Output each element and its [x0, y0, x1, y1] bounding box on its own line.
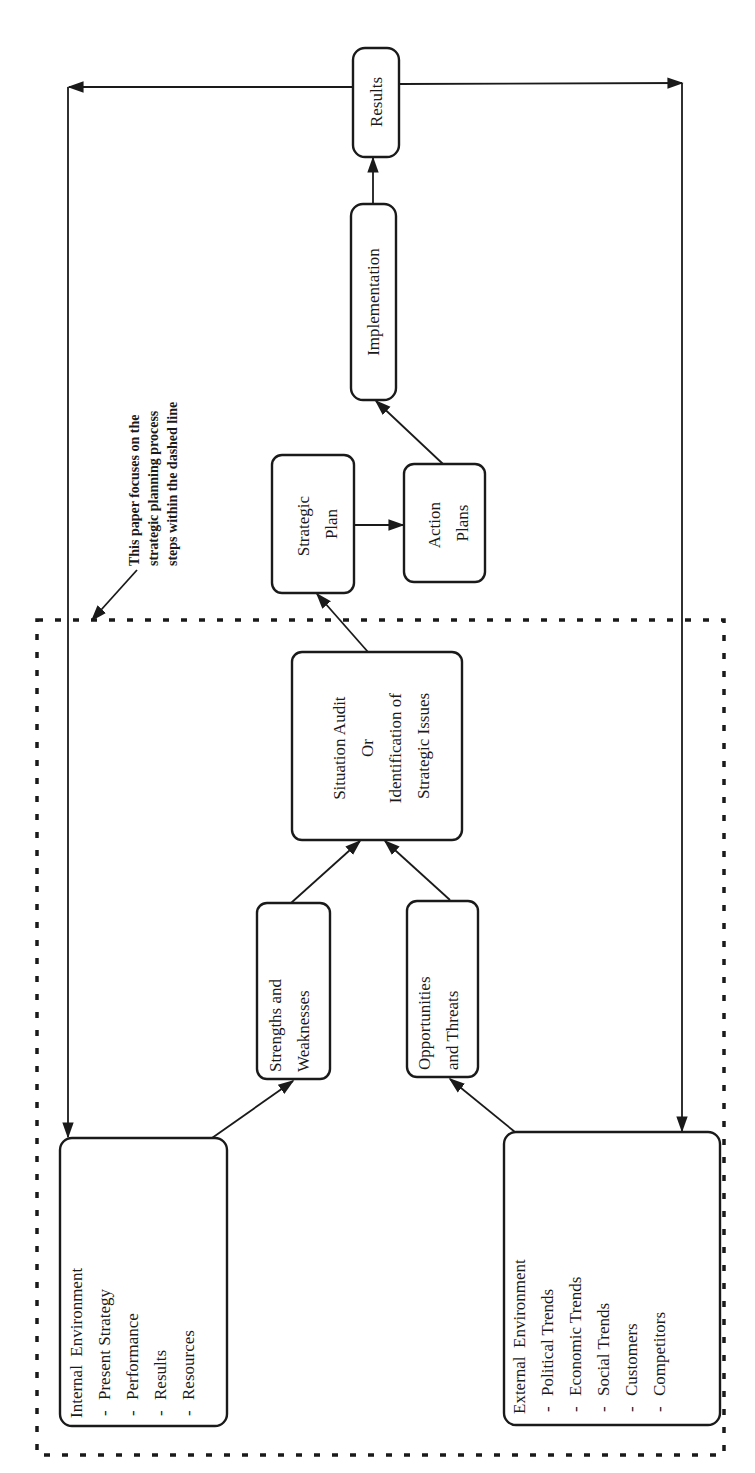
opportunities-line-2: and Threats [443, 991, 462, 1070]
note-line-1: This paper focuses on the [127, 415, 142, 566]
implementation-label: Implementation [364, 248, 383, 356]
action-plans-line-1: Action [425, 501, 444, 548]
note-line-3: steps within the dashed line [165, 402, 180, 566]
internal-bullet-4: - [179, 1410, 198, 1416]
arrow-strengths-to-situation [291, 841, 360, 903]
external-title: External Environment [510, 1259, 529, 1414]
situation-line-3: Identification of [386, 693, 405, 803]
external-item-1: Political Trends [538, 1289, 557, 1396]
external-bullet-1: - [538, 1406, 557, 1412]
note-line-2: strategic planning process [146, 410, 161, 566]
strengths-line-1: Strengths and [266, 978, 285, 1072]
internal-bullet-1: - [95, 1410, 114, 1416]
strategic-plan-line-1: Strategic [294, 495, 313, 556]
internal-item-2: Performance [123, 1313, 142, 1400]
external-item-3: Social Trends [594, 1303, 613, 1396]
box-situation-audit [292, 652, 462, 840]
situation-line-2: Or [358, 739, 377, 757]
external-bullet-3: - [594, 1406, 613, 1412]
box-action-plans [404, 464, 485, 582]
external-item-4: Customers [622, 1323, 641, 1396]
external-bullet-5: - [650, 1406, 669, 1412]
strengths-line-2: Weaknesses [294, 990, 313, 1072]
arrow-external-to-opportunities [450, 1079, 515, 1132]
action-plans-line-2: Plans [453, 505, 472, 542]
strategic-planning-diagram: Results Implementation Strategic Plan Ac… [0, 0, 755, 1473]
situation-line-4: Strategic Issues [414, 693, 433, 799]
internal-item-4: Resources [179, 1330, 198, 1400]
svg-text:This paper focuses on the: This paper focuses on the strategic plan… [127, 402, 180, 566]
opportunities-line-1: Opportunities [415, 977, 434, 1071]
internal-item-1: Present Strategy [95, 1289, 114, 1400]
note-pointer-arrow [92, 570, 137, 620]
external-item-5: Competitors [650, 1312, 669, 1396]
external-bullet-2: - [566, 1406, 585, 1412]
results-to-right-line [399, 83, 682, 84]
internal-title: Internal Environment [67, 1268, 86, 1418]
internal-bullet-3: - [151, 1410, 170, 1416]
external-bullet-4: - [622, 1406, 641, 1412]
svg-text:Results: Results [367, 77, 386, 127]
box-strategic-plan [272, 455, 354, 593]
strategic-plan-line-2: Plan [322, 508, 341, 539]
results-label: Results [367, 77, 386, 127]
arrow-internal-to-strengths [212, 1081, 293, 1138]
arrow-action-plans-to-implementation [376, 401, 443, 464]
internal-bullet-2: - [123, 1410, 142, 1416]
arrow-situation-to-strategic-plan [317, 594, 368, 652]
arrow-opportunities-to-situation [385, 841, 450, 900]
situation-line-1: Situation Audit [330, 696, 349, 800]
internal-item-3: Results [151, 1350, 170, 1400]
svg-text:Implementation: Implementation [364, 248, 383, 356]
external-item-2: Economic Trends [566, 1277, 585, 1396]
